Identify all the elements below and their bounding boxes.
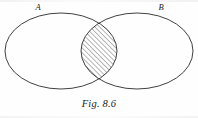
figure-caption: Fig. 8.6 [0,97,198,110]
set-a-label: A [34,2,41,12]
set-b-label: B [158,2,163,12]
figure-container: A B Fig. 8.6 [0,0,198,118]
